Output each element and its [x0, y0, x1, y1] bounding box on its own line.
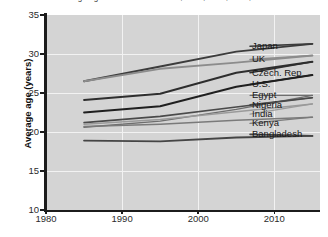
legend-label-uk: UK	[252, 54, 265, 64]
legend-label-kenya: Kenya	[252, 118, 279, 128]
legend-label-bangladesh: Bangladesh	[252, 129, 302, 139]
legend-label-japan: Japan	[252, 41, 278, 51]
legend-label-u-s: U.S.	[252, 79, 270, 89]
chart-canvas: Average age in selected countries, 1985,…	[0, 0, 328, 237]
legend-label-czech-rep: Czech. Rep	[252, 68, 302, 78]
